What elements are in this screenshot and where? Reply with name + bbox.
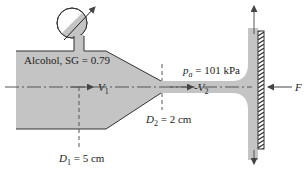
d1-label: D1 = 5 cm — [58, 152, 105, 167]
d2-label: D2 = 2 cm — [145, 113, 192, 128]
diagram-canvas: Alcohol, SG = 0.79 pa = 101 kPa V1 -V2 D… — [0, 0, 308, 170]
flat-plate — [258, 31, 264, 149]
fluid-label: Alcohol, SG = 0.79 — [24, 54, 110, 66]
pressure-label: pa = 101 kPa — [182, 64, 240, 79]
pressure-gauge — [57, 7, 95, 52]
jet — [161, 28, 258, 160]
force-label: F — [294, 81, 302, 93]
tank — [16, 36, 161, 129]
